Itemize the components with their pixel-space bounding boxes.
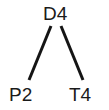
edge-d4-p2 (29, 26, 51, 80)
node-label-t4: T4 (69, 85, 91, 104)
edge-d4-t4 (61, 26, 83, 80)
node-label-p2: P2 (9, 85, 32, 104)
tree-diagram: D4 P2 T4 (0, 0, 109, 110)
node-label-d4: D4 (43, 4, 67, 23)
